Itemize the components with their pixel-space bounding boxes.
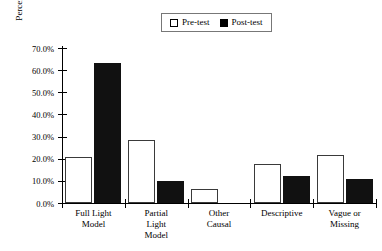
legend-entry-post-test: Post-test <box>220 18 263 27</box>
bar-post-test <box>283 176 310 203</box>
bar-pre-test <box>65 157 92 204</box>
y-axis-title: Percentage Response <box>13 0 25 60</box>
legend-swatch-post-test-icon <box>220 19 228 27</box>
y-axis-tick-label: 30.0% <box>32 133 54 142</box>
bar-pre-test <box>128 140 155 203</box>
x-axis-category-label: Partial Light Model <box>125 208 188 241</box>
x-axis-line <box>62 203 377 204</box>
y-axis-tick-label: 50.0% <box>32 89 54 98</box>
bar-pre-test <box>317 155 344 203</box>
plot-area <box>62 48 376 203</box>
x-axis-category-label: Full Light Model <box>62 208 125 230</box>
bar-pre-test <box>191 189 218 203</box>
x-axis-tick <box>376 199 377 208</box>
x-axis-category-label: Descriptive <box>250 208 313 219</box>
legend-entry-pre-test: Pre-test <box>170 18 210 27</box>
bar-pre-test <box>254 164 281 203</box>
y-axis-tick-label: 60.0% <box>32 66 54 75</box>
legend-label-post-test: Post-test <box>232 18 263 27</box>
y-axis-tick-label: 40.0% <box>32 111 54 120</box>
bar-post-test <box>346 179 373 203</box>
y-axis-title-text: Percentage Response <box>13 0 25 60</box>
y-axis-tick-label: 0.0% <box>36 199 54 208</box>
x-axis-category-label: Other Causal <box>188 208 251 230</box>
x-axis-category-label: Vague or Missing <box>313 208 376 230</box>
y-axis-tick-label: 10.0% <box>32 177 54 186</box>
bar-chart: Pre-test Post-test Percentage Response 0… <box>0 0 382 251</box>
y-axis-tick-label: 20.0% <box>32 155 54 164</box>
chart-legend: Pre-test Post-test <box>161 13 272 32</box>
bar-post-test <box>157 181 184 203</box>
y-axis-tick-label: 70.0% <box>32 44 54 53</box>
bar-post-test <box>94 63 121 203</box>
legend-label-pre-test: Pre-test <box>182 18 210 27</box>
legend-swatch-pre-test-icon <box>170 19 178 27</box>
